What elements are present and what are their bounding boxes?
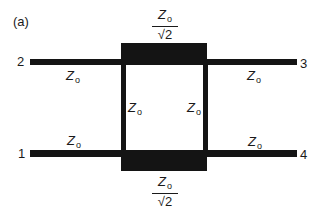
- impedance-label-shunt-right: Zo: [187, 101, 201, 117]
- shunt-arm-right: [203, 62, 208, 154]
- shunt-arm-left: [121, 62, 126, 154]
- port-4-label: 4: [300, 148, 307, 161]
- figure-label: (a): [13, 15, 29, 28]
- impedance-label-line4: Zo: [248, 135, 262, 151]
- impedance-label-shunt-left: Zo: [128, 101, 142, 117]
- impedance-label-line1: Zo: [67, 134, 81, 150]
- impedance-label-series-bottom: Zo √2: [152, 175, 178, 208]
- impedance-label-series-top: Zo √2: [152, 8, 178, 41]
- impedance-label-line2: Zo: [66, 69, 80, 85]
- series-arm-top: [121, 43, 207, 64]
- port-2-label: 2: [17, 55, 24, 68]
- port-1-label: 1: [18, 147, 25, 160]
- series-arm-bottom: [121, 150, 207, 171]
- impedance-label-line3: Zo: [247, 69, 261, 85]
- port-3-label: 3: [300, 57, 307, 70]
